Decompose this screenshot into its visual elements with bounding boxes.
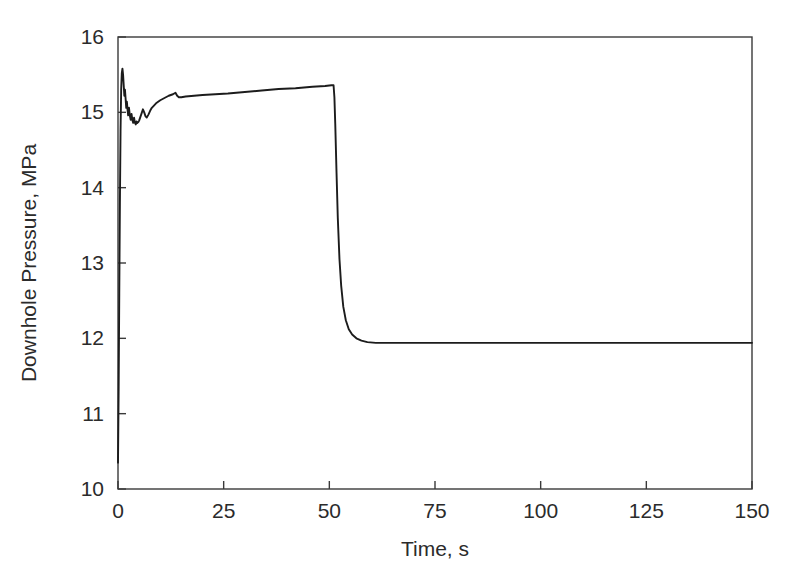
x-axis-title: Time, s [401,537,469,560]
x-tick-label-125: 125 [629,499,664,522]
data-series-group [118,69,752,463]
plot-frame [118,37,752,489]
x-axis-tick-marks [118,481,752,489]
downhole-pressure-line-chart: 0255075100125150 10111213141516 Time, s … [0,0,799,579]
y-axis-tick-labels: 10111213141516 [81,25,105,500]
x-tick-label-75: 75 [423,499,446,522]
y-tick-label-13: 13 [81,251,104,274]
x-tick-label-50: 50 [318,499,341,522]
y-tick-label-10: 10 [81,477,104,500]
x-tick-label-0: 0 [112,499,124,522]
x-tick-label-100: 100 [523,499,558,522]
x-axis-tick-labels: 0255075100125150 [112,499,769,522]
x-tick-label-150: 150 [734,499,769,522]
series-line-downhole-pressure [118,69,752,463]
y-tick-label-16: 16 [81,25,104,48]
y-tick-label-11: 11 [82,402,104,425]
y-axis-title: Downhole Pressure, MPa [17,144,40,382]
chart-figure: 0255075100125150 10111213141516 Time, s … [0,0,799,579]
y-tick-label-14: 14 [81,176,105,199]
y-tick-label-12: 12 [81,326,104,349]
y-tick-label-15: 15 [81,100,104,123]
x-tick-label-25: 25 [212,499,235,522]
